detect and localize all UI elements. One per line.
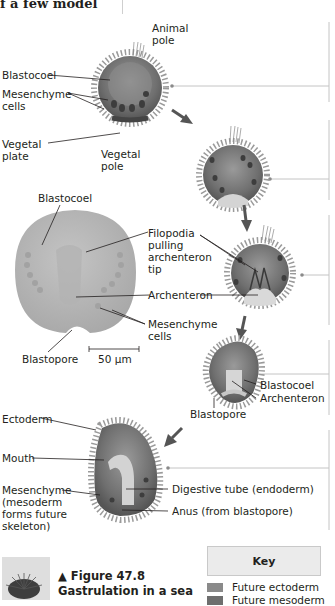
stage1-embryo	[94, 42, 166, 124]
label-archenteron-stage4: Archenteron	[260, 392, 325, 404]
label-filopodia-3: archenteron	[148, 251, 212, 263]
label-filopodia-1: Filopodia	[148, 227, 195, 239]
swatch-ectoderm	[207, 583, 223, 592]
label-digestive-tube: Digestive tube (endoderm)	[172, 483, 314, 495]
key-label-ectoderm: Future ectoderm	[232, 581, 319, 593]
stage5-embryo	[91, 420, 160, 520]
label-mesenchyme-stage5-4: skeleton)	[2, 520, 50, 532]
scale-bar-label: 50 µm	[98, 353, 132, 365]
scale-bar	[89, 346, 139, 352]
label-mesenchyme-stage5-2: (mesoderm	[2, 496, 62, 508]
label-filopodia-4: tip	[148, 263, 162, 275]
label-mesenchyme-1: Mesenchyme	[2, 88, 71, 100]
figure-number: ▲ Figure 47.8	[58, 569, 193, 584]
label-mesenchyme-stage5-1: Mesenchyme	[2, 484, 71, 496]
label-filopodia-2: pulling	[148, 239, 183, 251]
arrow-1	[172, 110, 193, 124]
arrow-3	[236, 316, 247, 340]
label-vegetal-plate-1: Vegetal	[2, 138, 41, 150]
arrow-4	[164, 428, 182, 447]
swatch-mesoderm	[207, 596, 223, 605]
label-blastocoel-stage4: Blastocoel	[260, 379, 314, 391]
label-mouth: Mouth	[2, 452, 35, 464]
label-mesenchyme-micrograph-1: Mesenchyme	[148, 318, 217, 330]
sea-urchin-thumbnail	[2, 557, 50, 600]
label-mesenchyme-2: cells	[2, 100, 26, 112]
label-mesenchyme-stage5-3: forms future	[2, 508, 67, 520]
key-header: Key	[207, 546, 321, 576]
label-blastopore-micrograph: Blastopore	[22, 353, 78, 365]
label-animal-pole-2: pole	[152, 34, 174, 46]
label-archenteron-micrograph: Archenteron	[148, 289, 213, 301]
label-ectoderm: Ectoderm	[2, 413, 52, 425]
label-mesenchyme-micrograph-2: cells	[148, 330, 172, 342]
label-vegetal-plate-2: plate	[2, 150, 29, 162]
label-anus: Anus (from blastopore)	[172, 505, 293, 517]
label-blastocoel-micrograph: Blastocoel	[38, 192, 92, 204]
label-vegetal-pole-1: Vegetal	[101, 148, 140, 160]
label-vegetal-pole-2: pole	[101, 160, 123, 172]
figure-caption: ▲ Figure 47.8 Gastrulation in a sea	[58, 569, 193, 599]
label-animal-pole-1: Animal	[152, 22, 188, 34]
key-item-ectoderm: Future ectoderm	[207, 581, 319, 593]
key-item-mesoderm: Future mesoderm	[207, 594, 325, 606]
label-blastocoel-stage1: Blastocoel	[2, 69, 56, 81]
label-blastopore-stage4: Blastopore	[190, 408, 246, 420]
figure-title: Gastrulation in a sea	[58, 584, 193, 599]
stage3-embryo	[227, 225, 293, 306]
stage2-embryo	[199, 126, 267, 209]
key-label-mesoderm: Future mesoderm	[232, 594, 325, 606]
